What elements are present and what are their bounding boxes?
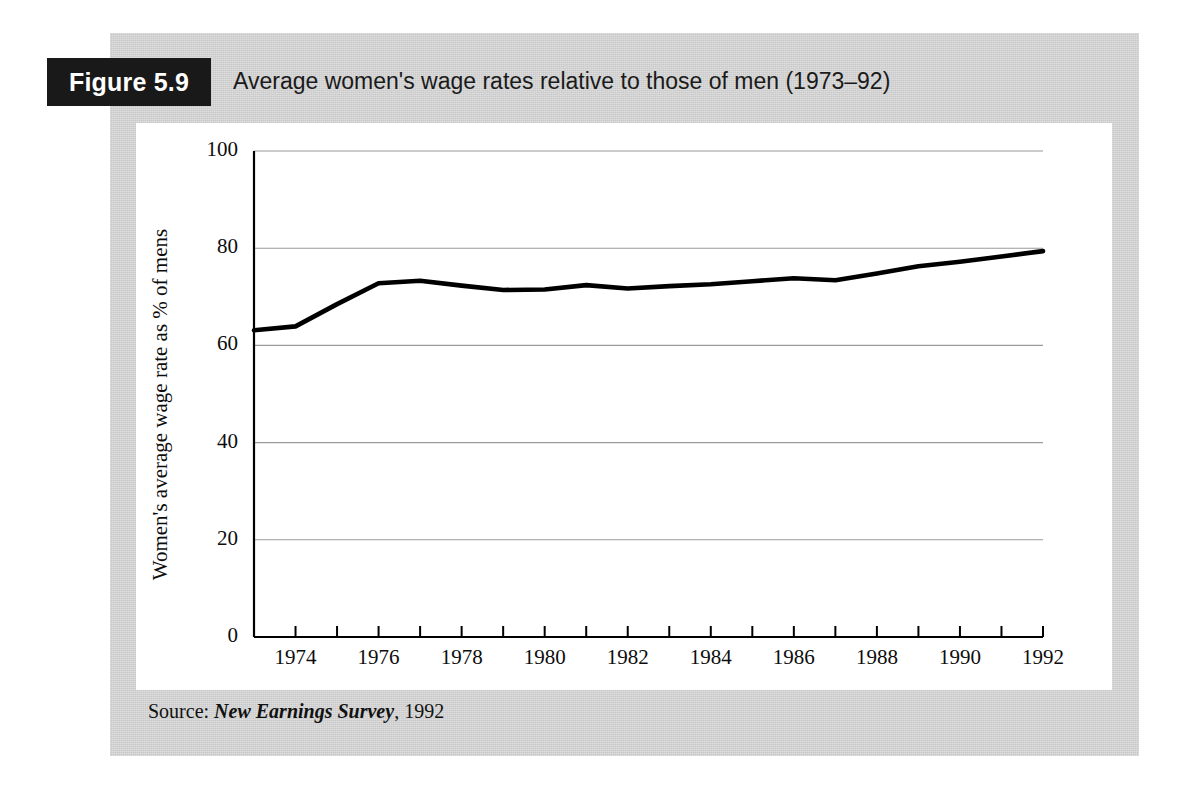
source-prefix: Source: bbox=[148, 700, 209, 722]
source-year: , 1992 bbox=[394, 700, 444, 722]
source-publication-title: New Earnings Survey bbox=[214, 700, 394, 722]
source-note: Source: New Earnings Survey, 1992 bbox=[148, 700, 444, 723]
figure-number-label: Figure 5.9 bbox=[69, 68, 189, 97]
chart-card bbox=[136, 123, 1112, 690]
figure-number-badge: Figure 5.9 bbox=[47, 58, 211, 106]
figure-root: Figure 5.9 Average women's wage rates re… bbox=[0, 0, 1199, 787]
figure-caption: Average women's wage rates relative to t… bbox=[233, 68, 890, 95]
